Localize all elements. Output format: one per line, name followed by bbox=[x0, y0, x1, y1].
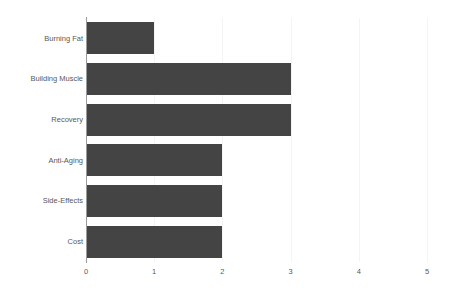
gridline bbox=[427, 18, 428, 262]
y-axis-tick-labels: Burning FatBuilding MuscleRecoveryAnti-A… bbox=[0, 18, 83, 262]
y-axis-spine bbox=[86, 17, 87, 263]
bar[interactable] bbox=[86, 144, 222, 176]
x-axis-tick-label: 2 bbox=[220, 268, 224, 276]
bar[interactable] bbox=[86, 185, 222, 217]
y-axis-tick-label: Anti-Aging bbox=[0, 140, 83, 181]
bar-slot bbox=[86, 181, 427, 222]
y-axis-tick-label: Building Muscle bbox=[0, 59, 83, 100]
bar-slot bbox=[86, 99, 427, 140]
x-axis-tick-label: 4 bbox=[357, 268, 361, 276]
y-axis-tick-label: Burning Fat bbox=[0, 18, 83, 59]
x-axis-tick-labels: 012345 bbox=[86, 268, 427, 282]
y-axis-tick-label: Cost bbox=[0, 221, 83, 262]
bar-slot bbox=[86, 18, 427, 59]
x-axis-tick-label: 0 bbox=[84, 268, 88, 276]
bar[interactable] bbox=[86, 63, 291, 95]
bar[interactable] bbox=[86, 226, 222, 258]
bar[interactable] bbox=[86, 22, 154, 54]
bar-slot bbox=[86, 59, 427, 100]
bar[interactable] bbox=[86, 104, 291, 136]
x-axis-tick-label: 3 bbox=[289, 268, 293, 276]
bar-slot bbox=[86, 221, 427, 262]
x-axis-tick-label: 5 bbox=[425, 268, 429, 276]
bar-chart-figure: Burning FatBuilding MuscleRecoveryAnti-A… bbox=[0, 0, 452, 300]
bar-slot bbox=[86, 140, 427, 181]
y-axis-tick-label: Side-Effects bbox=[0, 181, 83, 222]
plot-area bbox=[86, 18, 427, 262]
x-axis-tick-label: 1 bbox=[152, 268, 156, 276]
y-axis-tick-label: Recovery bbox=[0, 99, 83, 140]
bars-layer bbox=[86, 18, 427, 262]
